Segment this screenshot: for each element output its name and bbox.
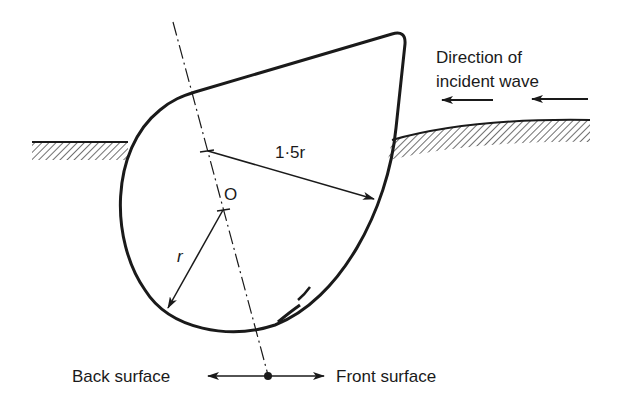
- teardrop-body-outline: [120, 33, 405, 332]
- small-radius-label: r: [177, 247, 184, 266]
- direction-label-line2: incident wave: [436, 72, 539, 91]
- origin-tick: [217, 209, 230, 211]
- large-radius-label: 1·5r: [275, 143, 306, 162]
- diagram-canvas: Direction of incident wave 1·5r O r Back…: [0, 0, 621, 413]
- direction-label-line1: Direction of: [436, 48, 522, 67]
- origin-label: O: [224, 185, 237, 204]
- back-surface-label: Back surface: [72, 367, 170, 386]
- ground-left: [32, 142, 128, 160]
- reference-point: [264, 372, 272, 380]
- front-surface-label: Front surface: [336, 367, 436, 386]
- ground-right: [388, 120, 590, 160]
